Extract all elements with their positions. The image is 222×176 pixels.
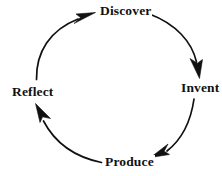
curved-arrow-icon-discover-to-invent — [150, 14, 197, 62]
cycle-diagram: Discover Invent Produce Reflect — [0, 0, 222, 176]
arrow-invent-to-produce — [151, 99, 195, 158]
node-label-reflect: Reflect — [11, 85, 55, 99]
node-label-invent: Invent — [180, 81, 220, 95]
arrowhead-discover — [74, 13, 96, 24]
arrow-reflect-to-discover — [36, 13, 95, 80]
curved-arrow-icon-reflect-to-discover — [36, 19, 78, 80]
curved-arrow-icon-invent-to-produce — [167, 99, 194, 151]
arrowhead-reflect — [36, 104, 51, 123]
node-label-discover: Discover — [99, 4, 152, 18]
arrow-discover-to-invent — [150, 14, 203, 79]
node-label-produce: Produce — [104, 155, 155, 169]
arrow-produce-to-reflect — [36, 104, 102, 163]
curved-arrow-icon-produce-to-reflect — [44, 121, 102, 163]
